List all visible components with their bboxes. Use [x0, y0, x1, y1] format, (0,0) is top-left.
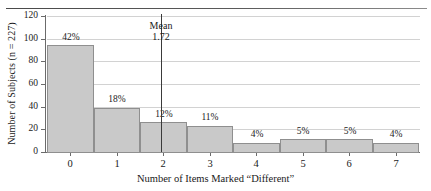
histogram-figure: 120 100 80 60 40 20 0 Number of Subjects… [0, 0, 431, 191]
bar-label-4: 4% [234, 130, 280, 140]
bar-label-7: 4% [373, 130, 419, 140]
mean-annotation: Mean 1.72 [131, 20, 191, 42]
y-tick-label-60: 60 [29, 79, 39, 89]
bar-label-1: 18% [94, 95, 140, 105]
y-tick-label-40: 40 [29, 102, 39, 112]
bar-label-2: 12% [141, 110, 187, 120]
y-tick-label-80: 80 [29, 56, 39, 66]
bar-label-5: 5% [280, 127, 326, 137]
y-tick-label-100: 100 [24, 34, 38, 44]
x-tick-label-1: 1 [107, 158, 127, 169]
bar-2 [140, 122, 187, 153]
x-tick-label-7: 7 [386, 158, 406, 169]
x-tick-1 [117, 153, 118, 156]
x-tick-2 [163, 153, 164, 156]
y-tick-label-20: 20 [29, 124, 39, 134]
bar-0 [47, 45, 94, 153]
x-tick-7 [396, 153, 397, 156]
bar-label-0: 42% [48, 33, 94, 43]
y-tick-label-0: 0 [33, 147, 38, 157]
mean-annotation-value: 1.72 [131, 31, 191, 42]
bar-5 [280, 139, 327, 153]
bar-1 [94, 108, 141, 153]
bar-label-3: 11% [187, 113, 233, 123]
x-tick-label-2: 2 [153, 158, 173, 169]
x-tick-6 [349, 153, 350, 156]
x-axis-title: Number of Items Marked “Different” [0, 173, 431, 184]
bar-7 [373, 143, 420, 153]
bar-6 [326, 139, 373, 153]
bar-label-6: 5% [327, 127, 373, 137]
x-tick-5 [303, 153, 304, 156]
x-tick-label-3: 3 [200, 158, 220, 169]
x-tick-4 [256, 153, 257, 156]
x-tick-0 [70, 153, 71, 156]
bar-4 [233, 143, 280, 153]
y-axis-title: Number of Subjects (n = 227) [6, 14, 17, 154]
x-tick-label-6: 6 [339, 158, 359, 169]
x-tick-label-0: 0 [60, 158, 80, 169]
x-tick-3 [210, 153, 211, 156]
y-tick-label-120: 120 [24, 11, 38, 21]
x-tick-label-4: 4 [246, 158, 266, 169]
mean-annotation-title: Mean [150, 20, 173, 31]
bar-3 [187, 126, 234, 153]
top-rule-divider [6, 8, 427, 9]
x-tick-label-5: 5 [293, 158, 313, 169]
